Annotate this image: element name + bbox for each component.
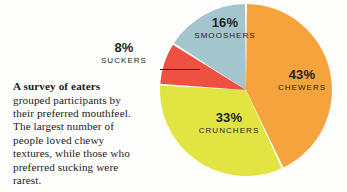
slice-value-chewers: 43% (266, 68, 338, 82)
slice-label-chewers: 43% CHEWERS (266, 68, 338, 93)
caption-text: A survey of eaters grouped participants … (13, 80, 135, 187)
suckers-leader-line (160, 69, 200, 70)
slice-name-smooshers: SMOOSHERS (184, 30, 266, 41)
caption-body: grouped participants by their preferred … (13, 94, 131, 186)
caption-lead: A survey of eaters (13, 80, 100, 92)
slice-name-suckers: SUCKERS (88, 55, 160, 66)
slice-name-crunchers: CRUNCHERS (186, 125, 272, 136)
slice-name-chewers: CHEWERS (266, 82, 338, 93)
slice-value-crunchers: 33% (186, 111, 272, 125)
slice-label-smooshers: 16% SMOOSHERS (184, 16, 266, 41)
slice-label-crunchers: 33% CRUNCHERS (186, 111, 272, 136)
pie-chart-figure: A survey of eaters grouped participants … (0, 0, 347, 192)
slice-value-smooshers: 16% (184, 16, 266, 30)
slice-label-suckers: 8% SUCKERS (88, 41, 160, 66)
slice-value-suckers: 8% (88, 41, 160, 55)
